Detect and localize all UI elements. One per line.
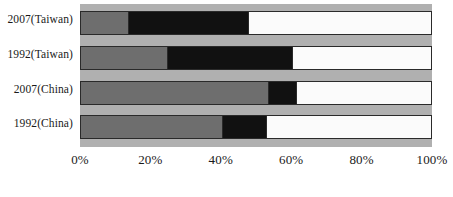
- bar-segment-1: [80, 115, 222, 139]
- bar-segment-2: [222, 115, 266, 139]
- bar-segment-3: [266, 115, 432, 139]
- x-tick-label: 60%: [279, 152, 303, 168]
- plot-area: [80, 4, 432, 147]
- x-tick-label: 100%: [416, 152, 447, 168]
- x-tick-label: 80%: [349, 152, 373, 168]
- category-label-2007-taiwan: 2007(Taiwan): [0, 13, 73, 25]
- table-row: [80, 115, 432, 139]
- bar-segment-1: [80, 46, 167, 70]
- category-label-1992-china: 1992(China): [0, 117, 73, 129]
- bar-segment-2: [167, 46, 292, 70]
- bar-segment-3: [296, 81, 432, 105]
- bar-segment-1: [80, 81, 268, 105]
- stacked-bar-chart: 2007(Taiwan) 1992(Taiwan) 2007(China) 19…: [0, 0, 453, 197]
- bar-segment-1: [80, 11, 128, 35]
- category-label-1992-taiwan: 1992(Taiwan): [0, 48, 73, 60]
- x-tick-label: 20%: [138, 152, 162, 168]
- x-axis: 0%20%40%60%80%100%: [80, 152, 432, 174]
- bar-segment-2: [128, 11, 248, 35]
- table-row: [80, 11, 432, 35]
- x-tick-label: 40%: [209, 152, 233, 168]
- table-row: [80, 81, 432, 105]
- table-row: [80, 46, 432, 70]
- bar-segment-3: [248, 11, 432, 35]
- x-tick-label: 0%: [71, 152, 89, 168]
- category-label-2007-china: 2007(China): [0, 83, 73, 95]
- bar-segment-3: [292, 46, 432, 70]
- bar-segment-2: [268, 81, 296, 105]
